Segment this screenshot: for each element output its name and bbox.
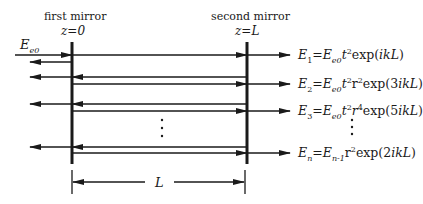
first-mirror-label: first mirror <box>44 11 107 22</box>
equation-1: E1=Ee0t2exp(ikL) <box>298 49 404 62</box>
input-field-label: Ee0 <box>20 38 39 51</box>
zL-label: z=L <box>235 25 259 37</box>
equation-2: E2=Ee0t2r2exp(3ikL) <box>298 78 423 91</box>
ellipsis-dots <box>161 119 353 137</box>
equation-3: E3=Ee0t2r4exp(5ikL) <box>298 105 423 118</box>
second-mirror-label: second mirror <box>211 11 290 22</box>
equation-n: En=En-1r2exp(2ikL) <box>298 147 416 160</box>
length-label: L <box>155 176 164 189</box>
z0-label: z=0 <box>61 25 85 37</box>
